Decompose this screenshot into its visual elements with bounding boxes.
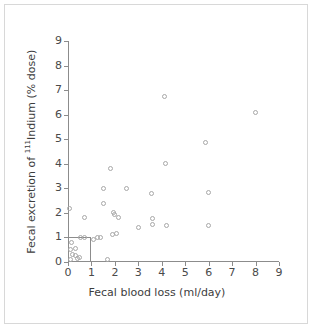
data-point (136, 225, 141, 230)
y-tick-mark (64, 262, 68, 263)
data-point (108, 166, 113, 171)
x-tick-label: 3 (128, 266, 148, 279)
data-point (203, 140, 208, 145)
data-point (101, 186, 106, 191)
chart-page: 0123456789 0123456789 Fecal blood loss (… (0, 0, 314, 332)
y-tick-label: 6 (46, 108, 62, 121)
data-point (77, 255, 82, 260)
x-tick-label: 5 (175, 266, 195, 279)
x-tick-label: 6 (199, 266, 219, 279)
data-point (150, 222, 155, 227)
data-point (150, 216, 155, 221)
data-point (73, 246, 78, 251)
data-point (162, 94, 167, 99)
data-point (149, 191, 154, 196)
data-point (101, 201, 106, 206)
data-point (116, 215, 121, 220)
data-point (206, 223, 211, 228)
y-tick-label: 5 (46, 132, 62, 145)
data-point (124, 186, 129, 191)
y-tick-mark (64, 164, 68, 165)
data-point (206, 190, 211, 195)
y-tick-label: 2 (46, 206, 62, 219)
y-tick-mark (64, 139, 68, 140)
y-axis-line (68, 41, 69, 262)
scatter-plot: 0123456789 0123456789 (0, 0, 314, 332)
y-tick-mark (64, 213, 68, 214)
data-point (67, 206, 72, 211)
data-point (105, 257, 110, 262)
y-tick-label: 1 (46, 230, 62, 243)
y-axis-title-suffix: Indium (% dose) (25, 50, 38, 140)
y-tick-mark (64, 237, 68, 238)
y-tick-label: 3 (46, 181, 62, 194)
y-tick-label: 0 (46, 255, 62, 268)
y-axis-title-superscript: 111 (24, 140, 32, 153)
x-tick-label: 9 (269, 266, 289, 279)
x-tick-label: 2 (105, 266, 125, 279)
x-tick-label: 4 (152, 266, 172, 279)
x-tick-label: 7 (222, 266, 242, 279)
y-tick-label: 9 (46, 34, 62, 47)
data-point (98, 235, 103, 240)
y-axis-title: Fecal excretion of 111Indium (% dose) (24, 54, 38, 254)
y-tick-mark (64, 188, 68, 189)
y-tick-mark (64, 66, 68, 67)
x-axis-title: Fecal blood loss (ml/day) (0, 286, 314, 299)
y-tick-label: 8 (46, 59, 62, 72)
data-point (68, 257, 73, 262)
y-tick-label: 7 (46, 83, 62, 96)
x-axis-line (68, 261, 279, 262)
y-tick-mark (64, 41, 68, 42)
x-tick-label: 8 (246, 266, 266, 279)
data-point (164, 223, 169, 228)
data-point (253, 110, 258, 115)
y-tick-mark (64, 90, 68, 91)
data-point (114, 231, 119, 236)
y-tick-label: 4 (46, 157, 62, 170)
data-point (163, 161, 168, 166)
y-tick-mark (64, 115, 68, 116)
data-point (82, 215, 87, 220)
y-axis-title-prefix: Fecal excretion of (25, 153, 38, 254)
x-tick-label: 1 (81, 266, 101, 279)
